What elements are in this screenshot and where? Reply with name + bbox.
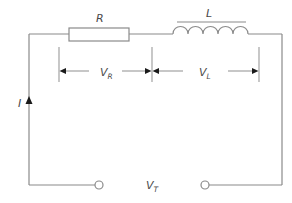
- right-terminal: [201, 181, 209, 189]
- vl-subscript: L: [207, 72, 211, 81]
- vt-subscript: T: [154, 185, 160, 194]
- current-label: I: [18, 97, 21, 110]
- left-terminal: [95, 181, 103, 189]
- resistor-label: R: [96, 12, 104, 25]
- inductor: [173, 27, 248, 35]
- current-arrow-icon: [26, 96, 33, 104]
- vl-label: VL: [199, 66, 211, 81]
- vr-subscript: R: [108, 72, 113, 81]
- vl-arrow-left-icon: [153, 68, 160, 74]
- resistor: [69, 28, 129, 41]
- vr-arrow-left-icon: [60, 68, 67, 74]
- vl-arrow-right-icon: [252, 68, 259, 74]
- vt-label: VT: [146, 179, 160, 194]
- inductor-label: L: [206, 7, 212, 20]
- vr-arrow-right-icon: [145, 68, 152, 74]
- vr-label: VR: [100, 66, 113, 81]
- rl-circuit-diagram: R L VR VL I VT: [0, 0, 292, 203]
